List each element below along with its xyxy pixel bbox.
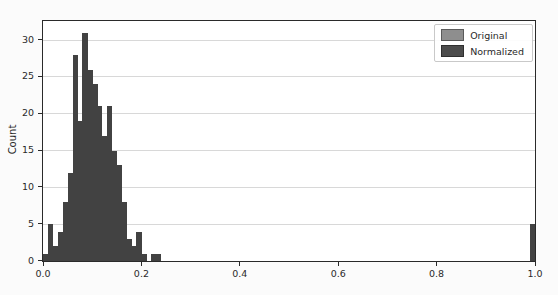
x-tick-mark <box>141 262 142 266</box>
y-tick-label: 30 <box>6 35 34 45</box>
y-tick-label: 25 <box>6 71 34 81</box>
x-tick-mark <box>535 262 536 266</box>
legend-label-original: Original <box>470 30 507 41</box>
y-tick-label: 0 <box>6 256 34 266</box>
x-tick-mark <box>338 262 339 266</box>
gridline <box>43 113 535 114</box>
x-tick-mark <box>43 262 44 266</box>
y-tick-label: 5 <box>6 219 34 229</box>
gridline <box>43 76 535 77</box>
x-tick-mark <box>239 262 240 266</box>
plot-area: Original Normalized <box>42 20 536 262</box>
legend-swatch-original-icon <box>441 29 464 41</box>
legend-entry-original: Original <box>441 29 524 41</box>
legend: Original Normalized <box>434 24 533 62</box>
x-tick-label: 0.4 <box>232 268 247 279</box>
x-tick-label: 0.2 <box>134 268 149 279</box>
histogram-bar <box>156 254 161 261</box>
y-tick-mark <box>38 150 42 151</box>
histogram-figure: Count Original Normalized 0510152025300.… <box>0 0 558 295</box>
legend-entry-normalized: Normalized <box>441 45 524 57</box>
y-tick-mark <box>38 260 42 261</box>
y-tick-mark <box>38 223 42 224</box>
x-tick-label: 0.6 <box>331 268 346 279</box>
legend-swatch-normalized-icon <box>441 45 464 57</box>
histogram-bar <box>141 254 146 261</box>
x-tick-label: 0.8 <box>429 268 444 279</box>
x-tick-label: 0.0 <box>35 268 50 279</box>
x-tick-mark <box>436 262 437 266</box>
legend-label-normalized: Normalized <box>470 46 524 57</box>
y-tick-mark <box>38 39 42 40</box>
y-tick-mark <box>38 186 42 187</box>
y-tick-mark <box>38 113 42 114</box>
y-tick-label: 20 <box>6 108 34 118</box>
y-tick-mark <box>38 76 42 77</box>
y-tick-label: 10 <box>6 182 34 192</box>
x-tick-label: 1.0 <box>527 268 542 279</box>
histogram-bar <box>530 224 535 261</box>
y-tick-label: 15 <box>6 145 34 155</box>
